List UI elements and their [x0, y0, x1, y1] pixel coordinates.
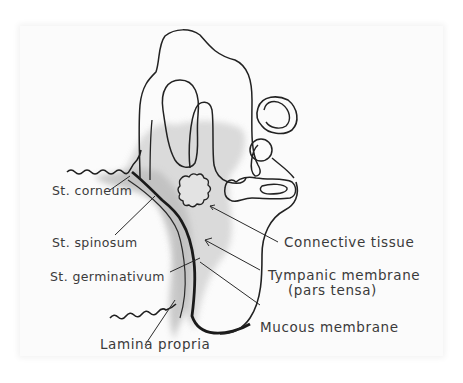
- double-oval-inner: [264, 102, 289, 129]
- label-mucous-membrane: Mucous membrane: [260, 320, 399, 334]
- label-tympanic-membrane: Tympanic membrane: [268, 268, 420, 282]
- label-lamina-propria: Lamina propria: [100, 337, 210, 351]
- tympanic-curve-right: [220, 182, 297, 334]
- skin-surface-lower: [110, 304, 176, 319]
- label-connective-tissue: Connective tissue: [284, 235, 414, 249]
- label-st-corneum: St. corneum: [52, 184, 132, 198]
- label-st-spinosum: St. spinosum: [52, 236, 138, 250]
- label-st-germinativum: St. germinativum: [50, 270, 165, 284]
- label-pars-tensa: (pars tensa): [288, 283, 377, 297]
- connector-curve: [272, 158, 294, 178]
- small-oval-in-process: [260, 184, 287, 194]
